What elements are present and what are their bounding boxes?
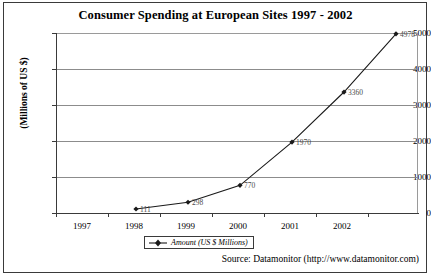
data-point-label: 1970 xyxy=(296,138,311,147)
x-tick-label-1999: 1999 xyxy=(161,221,211,231)
data-point-label: 770 xyxy=(244,181,255,190)
data-point-label: 298 xyxy=(192,198,203,207)
data-point-marker xyxy=(133,206,138,211)
legend-entry-label: Amount (US $ Millions) xyxy=(171,238,248,247)
data-series-line xyxy=(56,33,418,214)
series-polyline xyxy=(136,34,396,209)
data-point-label: 111 xyxy=(140,205,151,214)
data-point-label: 3360 xyxy=(348,88,363,97)
chart-title: Consumer Spending at European Sites 1997… xyxy=(0,8,431,23)
chart-legend: Amount (US $ Millions) xyxy=(144,236,254,249)
x-tick-label-2000: 2000 xyxy=(213,221,263,231)
chart-figure: Consumer Spending at European Sites 1997… xyxy=(0,0,431,279)
x-tick-label-2002: 2002 xyxy=(317,221,367,231)
data-point-marker xyxy=(185,200,190,205)
data-point-label: 4978 xyxy=(400,30,415,39)
x-tick-label-2001: 2001 xyxy=(265,221,315,231)
x-tick-label-1998: 1998 xyxy=(109,221,159,231)
series-markers xyxy=(133,31,398,211)
y-axis-title: (Millions of US $) xyxy=(19,23,29,163)
legend-marker-diamond-icon xyxy=(149,239,167,247)
source-note: Source: Datamonitor (http://www.datamoni… xyxy=(0,254,419,264)
x-tick-label-1997: 1997 xyxy=(57,221,107,231)
